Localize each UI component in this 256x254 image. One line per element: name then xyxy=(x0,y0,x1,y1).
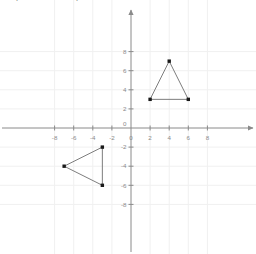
origin-label: 0 xyxy=(123,120,127,127)
x-axis-tick-label: 4 xyxy=(167,134,171,141)
x-axis-tick-label: -4 xyxy=(90,134,96,141)
vertex-point-marker xyxy=(148,98,151,101)
y-axis-tick-label: -2 xyxy=(121,143,127,150)
x-axis-tick-label: -6 xyxy=(71,134,77,141)
x-axis-tick-label: 0 xyxy=(129,134,133,141)
x-axis-tick-label: -2 xyxy=(109,134,115,141)
x-axis-tick-label: 8 xyxy=(206,134,210,141)
coordinate-grid-svg: -8-6-4-20246886420-2-4-6-8 xyxy=(0,0,256,254)
x-axis-tick-label: -8 xyxy=(52,134,58,141)
y-axis-tick-label: -8 xyxy=(121,201,127,208)
y-axis-tick-label: -6 xyxy=(121,182,127,189)
vertex-point-marker xyxy=(101,145,104,148)
vertex-point-marker xyxy=(168,59,171,62)
y-axis-tick-label: -4 xyxy=(121,162,127,169)
y-axis-tick-label: 6 xyxy=(123,67,127,74)
x-axis-tick-label: 2 xyxy=(148,134,152,141)
vertex-point-marker xyxy=(62,165,65,168)
y-axis-tick-label: 2 xyxy=(123,105,127,112)
vertex-point-marker xyxy=(101,184,104,187)
vertex-point-marker xyxy=(187,98,190,101)
y-axis-arrow-icon xyxy=(128,10,133,16)
x-axis-arrow-icon xyxy=(248,125,254,130)
y-axis-tick-label: 4 xyxy=(123,86,127,93)
y-axis-tick-label: 8 xyxy=(123,48,127,55)
x-axis-tick-label: 6 xyxy=(187,134,191,141)
coordinate-plane-figure: p p -8-6-4-20246886420-2-4-6-8 xyxy=(0,0,256,254)
axes xyxy=(2,10,254,253)
grid-lines xyxy=(0,0,256,254)
